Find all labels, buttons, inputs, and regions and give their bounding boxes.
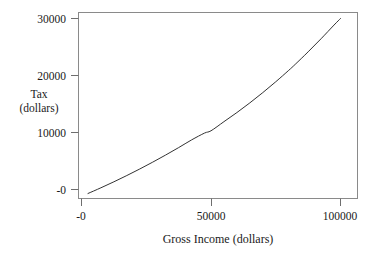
y-tick-label-10000: 10000 [14, 127, 66, 139]
y-tick-label-20000: 20000 [14, 70, 66, 82]
y-axis-ticks [71, 19, 79, 190]
y-tick-label-0: -0 [14, 184, 66, 196]
y-axis-title: Tax (dollars) [8, 88, 70, 115]
y-axis-title-line-1: Tax [8, 88, 70, 102]
x-tick-label-100000: 100000 [323, 210, 358, 222]
x-tick-label-50000: 50000 [197, 210, 226, 222]
y-tick-label-30000: 30000 [14, 13, 66, 25]
plot-frame [79, 13, 358, 199]
chart-figure: 30000 20000 10000 -0 Tax (dollars) -0 50… [0, 0, 369, 255]
x-tick-label-0: -0 [76, 210, 86, 222]
x-axis-title: Gross Income (dollars) [78, 232, 358, 246]
y-axis-title-line-2: (dollars) [8, 102, 70, 116]
x-axis-ticks [82, 199, 341, 207]
